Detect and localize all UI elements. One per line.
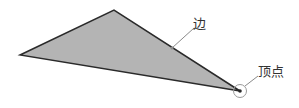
edge-label: 边 bbox=[193, 17, 206, 30]
triangle-shape bbox=[20, 10, 240, 91]
vertex-label: 顶点 bbox=[258, 65, 284, 78]
edge-leader-line bbox=[172, 28, 194, 48]
edge-point bbox=[171, 47, 174, 50]
triangle-figure bbox=[0, 0, 299, 108]
vertex-dot bbox=[238, 89, 242, 93]
triangle-diagram: 边 顶点 bbox=[0, 0, 299, 108]
vertex-leader-line bbox=[245, 76, 258, 86]
